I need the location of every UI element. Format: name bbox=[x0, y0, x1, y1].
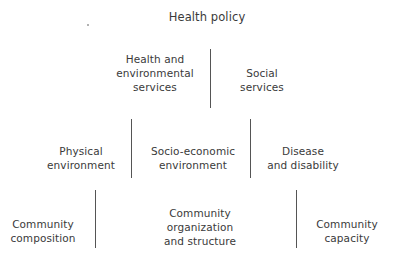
node-community-composition: Community composition bbox=[10, 217, 75, 245]
node-community-organization-structure: Community organization and structure bbox=[164, 206, 236, 248]
scan-artifact-dot bbox=[87, 24, 89, 26]
divider-level2-right bbox=[250, 119, 251, 178]
node-social-services: Social services bbox=[240, 66, 284, 94]
divider-level3-left bbox=[95, 190, 96, 248]
divider-level1 bbox=[210, 49, 211, 108]
diagram-title: Health policy bbox=[169, 10, 246, 24]
divider-level3-right bbox=[296, 190, 297, 248]
divider-level2-left bbox=[131, 119, 132, 178]
node-socio-economic-environment: Socio-economic environment bbox=[151, 144, 235, 172]
node-health-environmental-services: Health and environmental services bbox=[116, 52, 194, 94]
node-physical-environment: Physical environment bbox=[47, 144, 115, 172]
node-community-capacity: Community capacity bbox=[316, 217, 378, 245]
node-disease-disability: Disease and disability bbox=[267, 144, 339, 172]
